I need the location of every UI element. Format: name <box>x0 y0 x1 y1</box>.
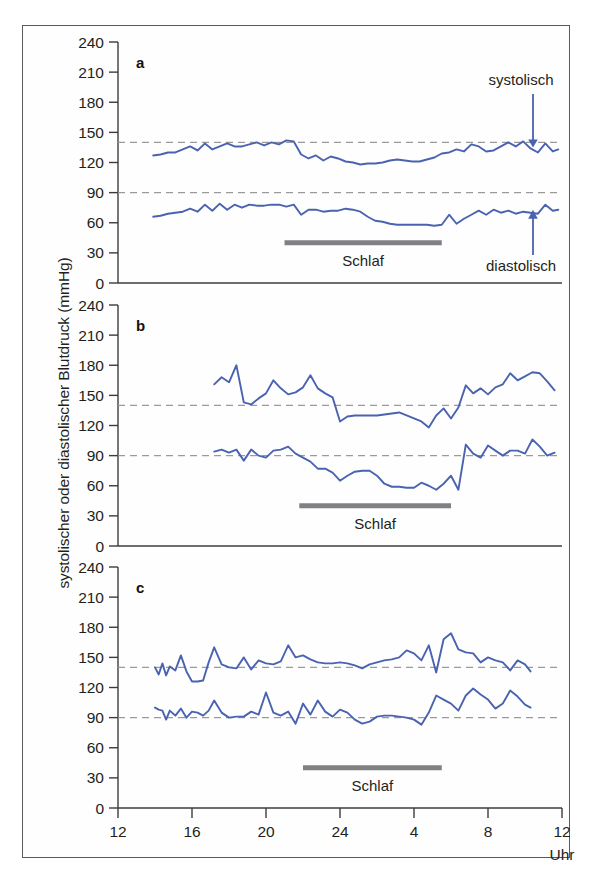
annotation-group: systolischdiastolisch <box>486 71 556 274</box>
sleep-label-a: Schlaf <box>342 252 385 269</box>
chart-canvas: 0306090120150180210240aSchlaf03060901201… <box>0 0 594 887</box>
y-tick-label-c-60: 60 <box>87 739 105 756</box>
panel-label-c: c <box>136 579 144 596</box>
y-tick-label-a-120: 120 <box>78 154 104 171</box>
sleep-label-c: Schlaf <box>352 777 395 794</box>
y-tick-label-a-30: 30 <box>87 244 105 261</box>
x-tick-label-24-3: 24 <box>331 823 349 840</box>
y-tick-label-b-180: 180 <box>78 357 104 374</box>
y-tick-label-a-180: 180 <box>78 94 104 111</box>
y-tick-label-b-90: 90 <box>87 447 105 464</box>
x-tick-label-4-4: 4 <box>410 823 419 840</box>
y-tick-label-b-0: 0 <box>95 538 104 555</box>
y-tick-label-a-60: 60 <box>87 214 105 231</box>
series-diastolisch-c <box>155 689 531 725</box>
y-tick-label-c-90: 90 <box>87 709 105 726</box>
y-tick-label-a-240: 240 <box>78 34 104 51</box>
y-tick-label-a-150: 150 <box>78 124 104 141</box>
y-tick-label-c-210: 210 <box>78 589 104 606</box>
y-tick-label-a-90: 90 <box>87 184 105 201</box>
y-tick-label-b-120: 120 <box>78 417 104 434</box>
series-systolisch-c <box>155 633 531 681</box>
y-tick-label-c-120: 120 <box>78 679 104 696</box>
y-tick-label-b-30: 30 <box>87 507 105 524</box>
annotation-systolic-label: systolisch <box>488 71 553 88</box>
blood-pressure-figure: systolischer oder diastolischer Blutdruc… <box>0 0 594 887</box>
annotation-systolic-arrow-head <box>528 139 538 147</box>
series-systolisch-b <box>214 365 554 427</box>
series-diastolisch-a <box>153 204 558 226</box>
series-diastolisch-b <box>214 440 554 490</box>
annotation-diastolic-label: diastolisch <box>486 257 556 274</box>
panel-label-a: a <box>136 54 145 71</box>
y-tick-label-a-210: 210 <box>78 64 104 81</box>
panel-label-b: b <box>136 317 145 334</box>
x-tick-label-20-2: 20 <box>257 823 275 840</box>
y-tick-label-c-0: 0 <box>95 800 104 817</box>
series-systolisch-a <box>153 140 558 164</box>
y-tick-label-a-0: 0 <box>95 275 104 292</box>
x-tick-label-12-6: 12 <box>553 823 570 840</box>
x-axis-group: 121620244812Uhr <box>109 808 574 863</box>
x-tick-label-8-5: 8 <box>484 823 493 840</box>
x-tick-label-12-0: 12 <box>109 823 126 840</box>
x-axis-unit-label: Uhr <box>550 846 575 863</box>
y-tick-label-b-60: 60 <box>87 477 105 494</box>
chart-svg: 0306090120150180210240aSchlaf03060901201… <box>0 0 594 887</box>
y-tick-label-c-30: 30 <box>87 769 105 786</box>
y-tick-label-b-240: 240 <box>78 297 104 314</box>
y-tick-label-b-150: 150 <box>78 387 104 404</box>
y-tick-label-c-150: 150 <box>78 649 104 666</box>
y-tick-label-b-210: 210 <box>78 327 104 344</box>
panel-c: 0306090120150180210240cSchlaf <box>78 559 562 817</box>
y-tick-label-c-240: 240 <box>78 559 104 576</box>
x-tick-label-16-1: 16 <box>183 823 200 840</box>
sleep-label-b: Schlaf <box>354 515 397 532</box>
y-tick-label-c-180: 180 <box>78 619 104 636</box>
panel-b: 0306090120150180210240bSchlaf <box>78 297 562 555</box>
